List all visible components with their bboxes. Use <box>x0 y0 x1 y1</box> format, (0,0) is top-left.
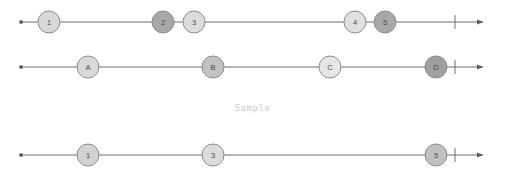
timeline-node-circle[interactable] <box>344 11 366 33</box>
timeline-node[interactable]: 2 <box>152 11 174 33</box>
timeline-node[interactable]: 4 <box>344 11 366 33</box>
timeline-node-circle[interactable] <box>77 144 99 166</box>
timeline-node-circle[interactable] <box>202 56 224 78</box>
timeline-node[interactable]: 1 <box>77 144 99 166</box>
timeline-node[interactable]: 5 <box>425 144 447 166</box>
timeline-node[interactable]: A <box>77 56 99 78</box>
timeline-node[interactable]: D <box>425 56 447 78</box>
timeline-node[interactable]: 3 <box>202 144 224 166</box>
timeline-node[interactable]: C <box>319 56 341 78</box>
axis-middle: ABCD <box>19 56 483 78</box>
timeline-node-circle[interactable] <box>77 56 99 78</box>
timeline-node-circle[interactable] <box>319 56 341 78</box>
timeline-diagram-canvas: 12345ABCD135 Sample <box>0 0 505 171</box>
timeline-node-circle[interactable] <box>374 11 396 33</box>
timeline-node[interactable]: B <box>202 56 224 78</box>
timeline-node-circle[interactable] <box>425 56 447 78</box>
timeline-node-circle[interactable] <box>425 144 447 166</box>
timeline-node-circle[interactable] <box>38 11 60 33</box>
timeline-node[interactable]: 1 <box>38 11 60 33</box>
timeline-node-circle[interactable] <box>202 144 224 166</box>
axis-top: 12345 <box>19 11 483 33</box>
axis-bottom: 135 <box>19 144 483 166</box>
axes-group: 12345ABCD135 <box>19 11 483 166</box>
axis-start-dot <box>19 20 22 23</box>
timeline-node[interactable]: 5 <box>374 11 396 33</box>
timeline-node[interactable]: 3 <box>183 11 205 33</box>
timeline-node-circle[interactable] <box>152 11 174 33</box>
timeline-axes-svg: 12345ABCD135 <box>0 0 505 171</box>
sample-caption: Sample <box>0 103 505 113</box>
axis-start-dot <box>19 65 22 68</box>
axis-start-dot <box>19 153 22 156</box>
timeline-node-circle[interactable] <box>183 11 205 33</box>
